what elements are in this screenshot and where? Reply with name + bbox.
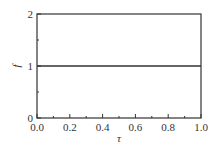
x-tick-label: 1.0 [194,121,208,133]
chart: 0.0 0.2 0.4 0.6 0.8 1.0 0 1 2 τ f [0,0,215,150]
y-tick-label: 1 [28,60,34,72]
x-axis-label: τ [117,132,122,144]
x-tick-label: 0.8 [161,121,175,133]
y-tick-label: 0 [28,112,34,124]
x-tick-label: 0.4 [96,121,110,133]
x-tick-label: 0.6 [129,121,143,133]
y-tick-label: 2 [28,8,34,20]
x-tick-label: 0.2 [63,121,77,133]
y-axis-label: f [10,63,22,68]
